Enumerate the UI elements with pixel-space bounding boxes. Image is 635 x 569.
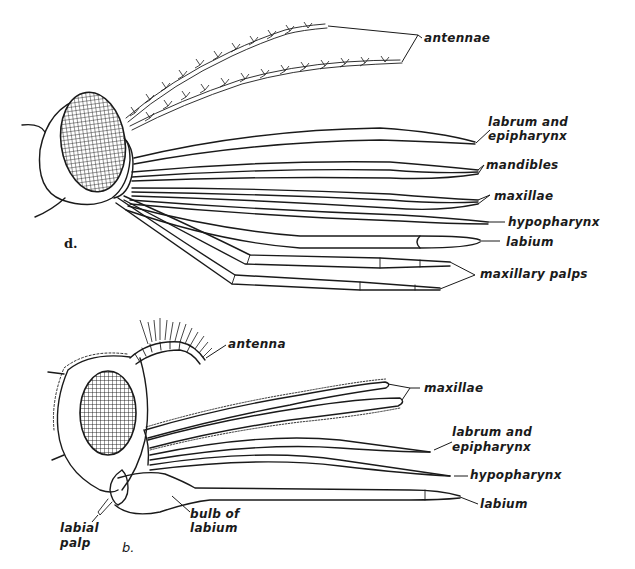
- panel-letter-d: d.: [64, 236, 78, 251]
- label-maxillary-palps: maxillary palps: [480, 268, 588, 280]
- neck-line-upper: [22, 125, 45, 132]
- labium-b: [118, 473, 460, 496]
- stylets-d: [116, 128, 488, 290]
- label-labial-line2: palp: [60, 537, 91, 549]
- compound-eye-b: [80, 371, 136, 455]
- leader-maxillae-d: [478, 195, 490, 204]
- label-labium-d: labium: [506, 236, 554, 248]
- label-labrum-d-line2: epipharynx: [488, 130, 567, 142]
- compound-eye: [54, 88, 131, 196]
- leader-labium-b: [460, 497, 478, 504]
- label-bulb-line1: bulb of: [190, 508, 240, 520]
- panel-d: [22, 22, 505, 290]
- leader-antennae: [328, 26, 422, 62]
- neck-line-lower: [35, 198, 65, 217]
- leader-labrum-b: [434, 442, 452, 450]
- antennae-drawing: [126, 22, 402, 130]
- label-bulb-line2: labium: [190, 522, 238, 534]
- antenna-b-drawing: [130, 318, 212, 364]
- labial-palp: [110, 470, 128, 505]
- label-labrum-b-line2: epipharynx: [452, 441, 531, 453]
- label-labium-b: labium: [480, 498, 528, 510]
- label-mandibles: mandibles: [486, 159, 559, 171]
- label-hypopharynx-b: hypopharynx: [470, 469, 562, 481]
- label-labrum-d-line1: labrum and: [488, 116, 568, 128]
- label-antenna-b: antenna: [228, 338, 286, 350]
- neck-stub-b-lower: [52, 455, 64, 460]
- mouthparts-diagram: [0, 0, 635, 569]
- label-labial-line1: labial: [60, 522, 99, 534]
- label-hypopharynx-d: hypopharynx: [508, 216, 600, 228]
- leader-mandibles-d: [478, 165, 484, 174]
- label-labrum-b-line1: labrum and: [452, 426, 532, 438]
- label-maxillae-b: maxillae: [424, 382, 483, 394]
- label-antennae: antennae: [424, 32, 490, 44]
- maxillae-b: [145, 379, 403, 450]
- label-maxillae-d: maxillae: [494, 190, 553, 202]
- panel-letter-b: b.: [122, 540, 134, 555]
